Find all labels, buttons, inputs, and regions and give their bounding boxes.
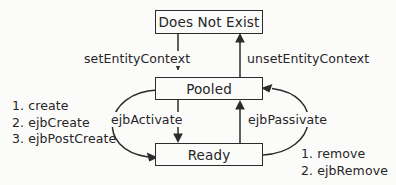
transition-unset-entity-context [235,33,245,77]
transition-label-unset-entity-context: unsetEntityContext [246,51,370,66]
create-sequence-list: 1. create 2. ejbCreate 3. ejbPostCreate [12,98,116,148]
state-does-not-exist-label: Does Not Exist [159,14,260,30]
transition-label-ejb-passivate: ejbPassivate [247,112,328,127]
state-pooled-label: Pooled [186,81,232,97]
state-ready-label: Ready [188,147,231,163]
create-sequence-step: 1. create [12,98,116,115]
remove-sequence-step: 2. ejbRemove [301,163,388,180]
state-does-not-exist: Does Not Exist [155,10,263,34]
state-ready: Ready [155,143,263,166]
state-pooled: Pooled [155,77,263,100]
create-sequence-step: 2. ejbCreate [12,115,116,132]
transition-label-set-entity-context: setEntityContext [83,51,191,66]
state-diagram-canvas: Does Not Exist Pooled Ready setEntityCon… [0,0,396,185]
transition-ejb-passivate [235,100,245,143]
transition-label-ejb-activate: ejbActivate [110,112,183,127]
remove-sequence-step: 1. remove [301,146,388,163]
create-sequence-step: 3. ejbPostCreate [12,131,116,148]
remove-sequence-list: 1. remove 2. ejbRemove [301,146,388,179]
